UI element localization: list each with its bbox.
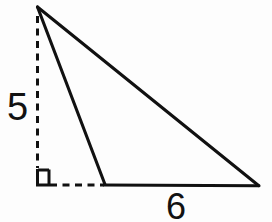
geometry-figure: 5 6	[0, 0, 272, 222]
triangle-diagram-svg	[0, 0, 272, 222]
base-measure-label: 6	[166, 189, 186, 222]
altitude-measure-label: 5	[7, 88, 28, 126]
